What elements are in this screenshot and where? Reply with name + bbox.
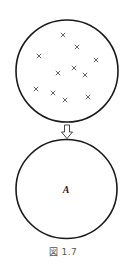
cross-mark-icon — [72, 66, 76, 70]
down-arrow-icon — [62, 125, 73, 139]
top-circle-group — [16, 20, 118, 122]
bottom-circle-group: A — [16, 140, 117, 239]
cross-mark-icon — [56, 71, 60, 75]
cross-mark-icon — [61, 33, 65, 37]
cross-mark-icon — [34, 87, 38, 91]
label-a: A — [62, 184, 70, 195]
cross-mark-icon — [86, 95, 90, 99]
cross-mark-icon — [83, 73, 87, 77]
cross-mark-icon — [94, 58, 98, 62]
top-circle — [16, 20, 118, 122]
cross-mark-icon — [75, 45, 79, 49]
figure-caption: 図 1.7 — [0, 245, 126, 258]
cross-mark-icon — [51, 91, 55, 95]
cross-marks — [34, 33, 98, 102]
cross-mark-icon — [37, 54, 41, 58]
cross-mark-icon — [63, 98, 67, 102]
diagram-canvas: A — [0, 0, 126, 268]
